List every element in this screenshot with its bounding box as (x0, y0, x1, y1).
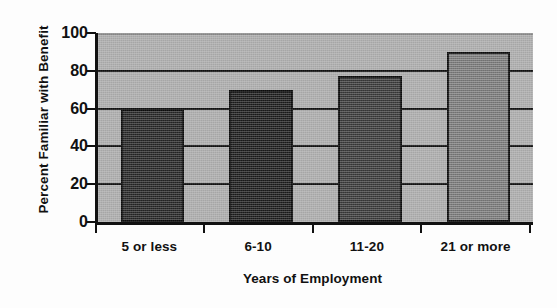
bar (447, 52, 511, 222)
bar (229, 90, 293, 222)
bar-grain-overlay (231, 92, 291, 220)
x-axis-tick-mark (529, 222, 531, 233)
y-axis-tick-label: 0 (48, 214, 88, 230)
x-axis-title: Years of Employment (95, 271, 530, 286)
bar-chart-figure: Percent Familiar with Benefit 0204060801… (0, 0, 557, 308)
y-axis-tick-label: 60 (48, 101, 88, 117)
bar-grain-overlay (340, 78, 400, 220)
bar-grain-overlay (449, 54, 509, 220)
y-axis-tick-label: 20 (48, 176, 88, 192)
x-axis-tick-mark (420, 222, 422, 233)
x-axis-tick-label: 5 or less (95, 239, 204, 254)
y-axis-tick-label: 40 (48, 138, 88, 154)
bar-series (98, 33, 533, 222)
y-axis-tick-labels: 020406080100 (44, 0, 88, 308)
y-axis-tick-label: 100 (48, 25, 88, 41)
x-axis-tick-marks (95, 222, 533, 234)
plot-area (95, 33, 533, 225)
x-axis-tick-mark (203, 222, 205, 233)
x-axis-tick-label: 11-20 (313, 239, 422, 254)
x-axis-tick-labels: 5 or less6-1011-2021 or more (95, 239, 530, 261)
x-axis-tick-mark (95, 222, 97, 233)
y-axis-tick-label: 80 (48, 63, 88, 79)
x-axis-tick-mark (312, 222, 314, 233)
scanned-page-canvas: CHAPTER SUMMARY Percent Familiar with Be… (0, 0, 557, 308)
bar-grain-overlay (123, 111, 183, 220)
bar (121, 109, 185, 222)
x-axis-tick-label: 21 or more (421, 239, 530, 254)
bar (338, 76, 402, 222)
x-axis-tick-label: 6-10 (204, 239, 313, 254)
